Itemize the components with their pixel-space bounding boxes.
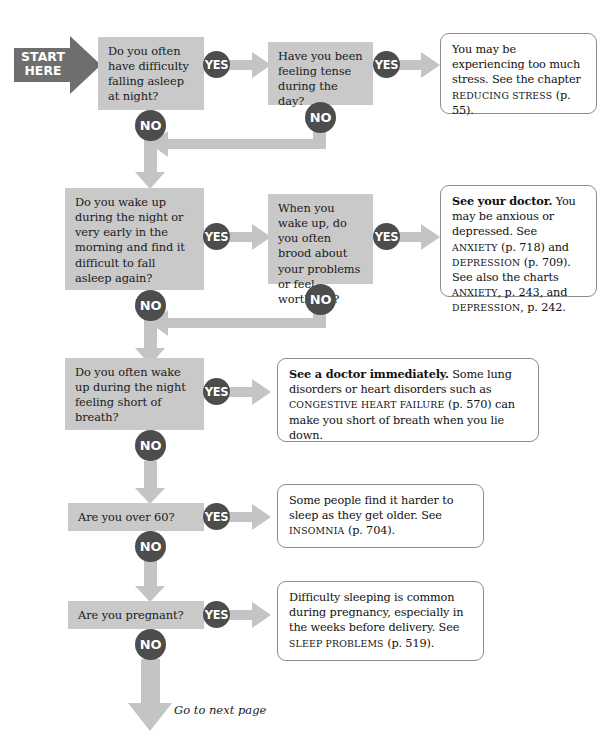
start-here-label: START HERE	[16, 50, 70, 79]
no-badge-q2[interactable]: NO	[305, 102, 336, 133]
question-6-text: Are you over 60?	[78, 510, 174, 525]
question-3-text: Do you wake up during the night or very …	[75, 195, 185, 285]
flowchart-canvas: START HERE Do you often have difficulty …	[0, 0, 608, 747]
yes-label: YES	[205, 608, 229, 622]
no-badge-q7[interactable]: NO	[135, 629, 166, 660]
outcome-2-smallcaps-4: DEPRESSION	[452, 302, 520, 313]
question-box-3[interactable]: Do you wake up during the night or very …	[65, 188, 204, 290]
outcome-2-lead: See your doctor.	[452, 194, 552, 208]
arrow-q2-no	[150, 118, 326, 157]
question-box-6[interactable]: Are you over 60?	[68, 503, 204, 531]
outcome-1-text-before: You may be experiencing too much stress.…	[452, 43, 581, 86]
outcome-box-1[interactable]: You may be experiencing too much stress.…	[440, 33, 597, 114]
outcome-5-smallcaps: SLEEP PROBLEMS	[289, 638, 384, 649]
question-2-text: Have you been feeling tense during the d…	[278, 49, 363, 108]
yes-label: YES	[375, 230, 399, 244]
arrow-q2-yes	[398, 52, 440, 78]
no-label: NO	[140, 637, 161, 652]
no-badge-q5[interactable]: NO	[135, 430, 166, 461]
outcome-2-seg5: , p. 242.	[520, 301, 565, 314]
question-box-1[interactable]: Do you often have difficulty falling asl…	[98, 37, 204, 110]
outcome-4-text-after: (p. 704).	[344, 524, 394, 537]
outcome-4-text-before: Some people find it harder to sleep as t…	[289, 494, 453, 522]
arrow-q4-yes	[398, 224, 440, 250]
question-5-text: Do you often wake up during the night fe…	[75, 365, 186, 424]
question-box-7[interactable]: Are you pregnant?	[68, 601, 204, 629]
outcome-1-smallcaps: REDUCING STRESS	[452, 90, 552, 101]
arrow-q6-no	[135, 561, 165, 602]
yes-badge-q3[interactable]: YES	[203, 223, 230, 250]
yes-badge-q5[interactable]: YES	[203, 378, 230, 405]
question-7-text: Are you pregnant?	[78, 608, 184, 623]
yes-badge-q2[interactable]: YES	[373, 51, 400, 78]
yes-badge-q6[interactable]: YES	[203, 503, 230, 530]
arrow-q7-yes	[228, 602, 271, 628]
yes-label: YES	[205, 385, 229, 399]
no-badge-q6[interactable]: NO	[135, 531, 166, 562]
outcome-box-2[interactable]: See your doctor. You may be anxious or d…	[440, 185, 597, 297]
footer-text: Go to next page	[174, 703, 266, 717]
arrow-q3-yes	[228, 224, 271, 250]
no-badge-q4[interactable]: NO	[305, 284, 336, 315]
start-here-line1: START	[21, 49, 65, 64]
outcome-2-seg4: , p. 243, and	[498, 286, 568, 299]
yes-badge-q4[interactable]: YES	[373, 223, 400, 250]
arrow-q1-yes	[228, 52, 271, 78]
no-label: NO	[310, 292, 331, 307]
question-1-text: Do you often have difficulty falling asl…	[108, 44, 189, 103]
outcome-2-seg2: (p. 718) and	[498, 241, 569, 254]
outcome-2-smallcaps-3: ANXIETY	[452, 287, 498, 298]
outcome-3-smallcaps-1: CONGESTIVE HEART FAILURE	[289, 399, 445, 410]
no-label: NO	[140, 438, 161, 453]
arrow-q5-no	[135, 461, 165, 504]
yes-label: YES	[205, 58, 229, 72]
no-badge-q1[interactable]: NO	[135, 110, 166, 141]
outcome-2-smallcaps-2: DEPRESSION	[452, 257, 520, 268]
no-label: NO	[140, 298, 161, 313]
outcome-2-smallcaps-1: ANXIETY	[452, 242, 498, 253]
outcome-box-4[interactable]: Some people find it harder to sleep as t…	[277, 484, 484, 548]
outcome-4-smallcaps: INSOMNIA	[289, 525, 344, 536]
start-here-line2: HERE	[24, 63, 61, 78]
yes-badge-q1[interactable]: YES	[203, 51, 230, 78]
no-label: NO	[310, 110, 331, 125]
no-label: NO	[140, 118, 161, 133]
outcome-3-lead: See a doctor immediately.	[289, 367, 449, 381]
question-box-4[interactable]: When you wake up, do you often brood abo…	[268, 194, 373, 284]
no-label: NO	[140, 539, 161, 554]
arrow-q5-yes	[228, 379, 271, 405]
outcome-box-3[interactable]: See a doctor immediately. Some lung diso…	[277, 358, 539, 442]
arrow-q7-no-to-next-page	[128, 659, 172, 731]
question-box-5[interactable]: Do you often wake up during the night fe…	[65, 358, 204, 430]
yes-label: YES	[205, 510, 229, 524]
yes-label: YES	[205, 230, 229, 244]
arrow-q6-yes	[228, 504, 271, 530]
go-to-next-page-label: Go to next page	[174, 703, 266, 717]
no-badge-q3[interactable]: NO	[135, 290, 166, 321]
outcome-5-text-before: Difficulty sleeping is common during pre…	[289, 591, 463, 634]
question-box-2[interactable]: Have you been feeling tense during the d…	[268, 42, 373, 105]
yes-badge-q7[interactable]: YES	[203, 601, 230, 628]
yes-label: YES	[375, 58, 399, 72]
outcome-box-5[interactable]: Difficulty sleeping is common during pre…	[277, 581, 484, 661]
outcome-5-text-after: (p. 519).	[384, 637, 434, 650]
